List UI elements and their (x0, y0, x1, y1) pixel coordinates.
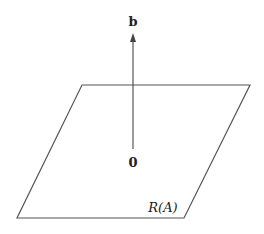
origin-label: 0 (128, 155, 137, 170)
diagram-canvas: b 0 R(A) (0, 0, 264, 234)
plane-label: R(A) (147, 200, 177, 215)
arrowhead-icon (130, 33, 136, 42)
vector-label: b (128, 14, 137, 29)
